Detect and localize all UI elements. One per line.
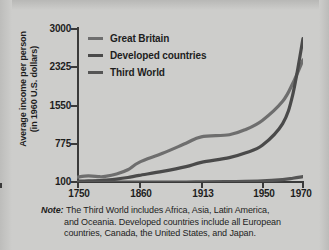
note-line-1: Note: The Third World includes Africa, A… — [41, 205, 313, 217]
legend-item-third-world: Third World — [88, 65, 206, 79]
y-tick-label-100: 100 — [55, 176, 71, 187]
legend-item-developed-countries: Developed countries — [88, 48, 206, 62]
x-tick-label-1860: 1860 — [130, 188, 151, 199]
legend-item-great-britain: Great Britain — [88, 31, 206, 45]
page-edge-left — [0, 0, 12, 250]
legend-label-developed-countries: Developed countries — [110, 50, 206, 61]
y-tick-label-2325: 2325 — [50, 61, 71, 72]
chart-figure: Average income per person (in 1960 U.S. … — [0, 0, 329, 250]
y-axis-title-line1: Average income per person — [18, 14, 29, 164]
legend-swatch-great-britain — [88, 37, 103, 40]
legend-swatch-developed-countries — [88, 54, 103, 57]
x-tick-label-1970: 1970 — [290, 188, 311, 199]
y-tick-label-3000: 3000 — [50, 23, 71, 34]
note-line-1-text: The Third World includes Africa, Asia, L… — [66, 205, 269, 215]
legend-label-great-britain: Great Britain — [110, 33, 169, 44]
chart-note: Note: The Third World includes Africa, A… — [41, 205, 313, 240]
page-edge-right — [319, 0, 329, 250]
x-tick-label-1913: 1913 — [192, 188, 213, 199]
x-tick-mark-1913 — [0, 183, 2, 188]
note-label: Note: — [41, 205, 64, 215]
note-line-3: countries, Canada, the United States, an… — [41, 228, 313, 240]
x-tick-label-1950: 1950 — [253, 188, 274, 199]
y-tick-label-1550: 1550 — [50, 100, 71, 111]
legend-swatch-third-world — [88, 71, 103, 74]
note-line-2: and Oceania. Developed countries include… — [41, 217, 313, 229]
chart-legend: Great Britain Developed countries Third … — [88, 31, 206, 82]
y-tick-label-775: 775 — [55, 138, 71, 149]
x-tick-label-1750: 1750 — [68, 188, 89, 199]
legend-label-third-world: Third World — [110, 67, 165, 78]
